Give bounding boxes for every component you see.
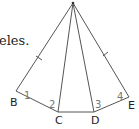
base-polyline-bcde (16, 91, 129, 112)
segment-apex-c (58, 3, 73, 112)
segment-apex-d (73, 3, 94, 112)
label-d: D (91, 114, 99, 127)
geometry-diagram: B C D E 1 2 3 4 (0, 0, 139, 129)
angle-label-2: 2 (49, 99, 55, 110)
segment-apex-b (16, 3, 73, 91)
angle-label-4: 4 (117, 91, 123, 102)
label-e: E (128, 99, 135, 112)
label-c: C (55, 114, 63, 127)
label-b: B (10, 96, 18, 109)
apex-point (72, 2, 75, 5)
segment-apex-e (73, 3, 129, 97)
angle-label-1: 1 (24, 90, 30, 101)
angle-label-3: 3 (95, 99, 101, 110)
